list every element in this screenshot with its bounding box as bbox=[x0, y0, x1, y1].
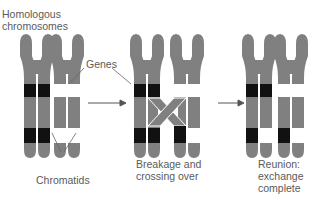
label-breakage-line1: Breakage and bbox=[136, 158, 201, 170]
chromosome-paternal-recombined bbox=[274, 34, 308, 158]
label-reunion: Reunion: exchange complete bbox=[258, 158, 304, 194]
chromosome-maternal-recombined bbox=[242, 34, 276, 158]
label-breakage: Breakage and crossing over bbox=[136, 158, 201, 182]
label-homologous: Homologous chromosomes bbox=[2, 8, 68, 32]
label-genes: Genes bbox=[86, 58, 117, 70]
label-chromatids: Chromatids bbox=[36, 174, 90, 186]
stage-3-reunion bbox=[242, 34, 308, 158]
chromosome-set bbox=[20, 34, 308, 158]
label-homologous-line2: chromosomes bbox=[2, 20, 68, 32]
arrow-1-head bbox=[120, 100, 126, 106]
chromosome-maternal-crossing bbox=[130, 34, 164, 158]
chromosome-maternal bbox=[20, 34, 54, 158]
genes-pointer-right bbox=[112, 68, 131, 84]
label-reunion-line1: Reunion: bbox=[258, 158, 304, 170]
stage-1-homologous bbox=[20, 34, 84, 158]
label-breakage-line2: crossing over bbox=[136, 170, 201, 182]
arrow-2-head bbox=[238, 100, 244, 106]
label-reunion-line2: exchange bbox=[258, 170, 304, 182]
stage-2-crossing-over bbox=[130, 34, 204, 158]
label-homologous-line1: Homologous bbox=[2, 8, 68, 20]
label-reunion-line3: complete bbox=[258, 182, 304, 194]
